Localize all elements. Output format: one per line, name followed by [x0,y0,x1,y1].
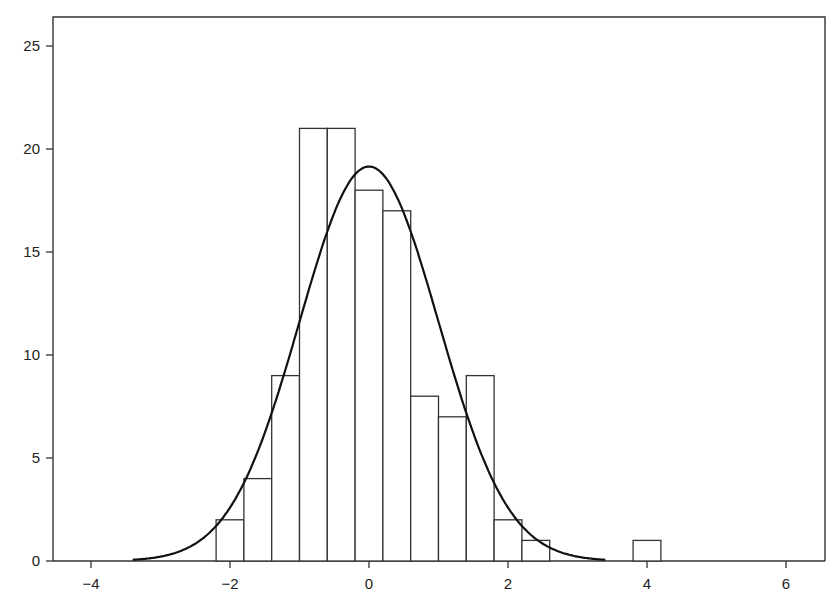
x-tick-label: 4 [643,575,651,592]
histogram-bar [300,128,328,561]
histogram-bar [327,128,355,561]
y-tick-label: 25 [23,37,40,54]
x-tick-label: 0 [365,575,373,592]
histogram-bar [466,376,494,561]
histogram-bar [633,540,661,561]
histogram-bar [244,479,272,561]
histogram-bar [439,417,467,561]
x-tick-label: −4 [82,575,99,592]
y-tick-label: 15 [23,243,40,260]
y-tick-label: 20 [23,140,40,157]
histogram-bar [411,396,439,561]
y-tick-label: 10 [23,346,40,363]
histogram-bar [383,211,411,561]
histogram-bars [216,128,661,561]
x-tick-label: 2 [504,575,512,592]
y-axis: 0510152025 [23,37,53,569]
histogram-bar [216,520,244,561]
histogram-bar [494,520,522,561]
histogram-bar [522,540,550,561]
x-tick-label: −2 [221,575,238,592]
y-tick-label: 0 [32,552,40,569]
x-tick-label: 6 [782,575,790,592]
histogram-bar [355,190,383,561]
y-tick-label: 5 [32,449,40,466]
x-axis: −4−20246 [82,561,790,592]
histogram-chart: −4−20246 0510152025 [0,0,837,615]
